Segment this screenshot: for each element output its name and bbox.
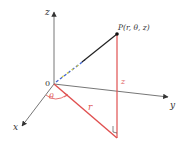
origin-label: 0 [45, 79, 50, 88]
op-line-dashed [56, 60, 85, 82]
y-axis-label: y [169, 100, 176, 110]
height-label: z [120, 77, 126, 86]
z-axis-label: z [44, 7, 50, 17]
cylindrical-coordinates-diagram: z y x 0 P(r, θ, z) z r θ [0, 0, 189, 153]
radius-segment [54, 84, 117, 138]
x-axis-label: x [13, 122, 18, 132]
theta-label: θ [49, 92, 54, 101]
op-line [82, 34, 117, 62]
point-label: P(r, θ, z) [117, 23, 150, 32]
radius-label: r [88, 102, 93, 112]
y-axis [54, 84, 168, 97]
point-p [115, 32, 119, 36]
x-axis [22, 84, 54, 126]
